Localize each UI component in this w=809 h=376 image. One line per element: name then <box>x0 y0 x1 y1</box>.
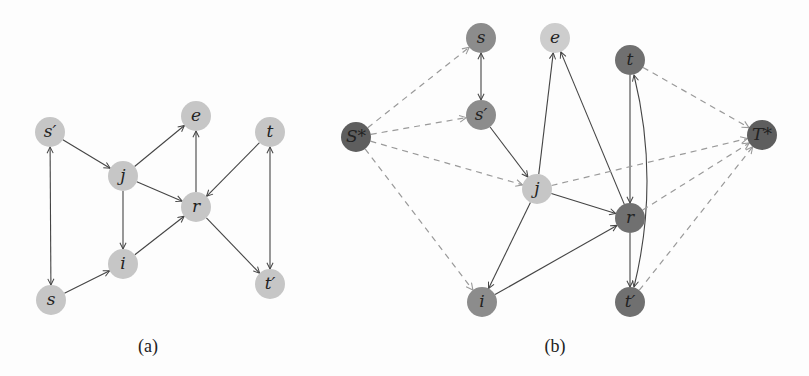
node-label: t′ <box>625 291 636 311</box>
node-label: e <box>191 105 201 125</box>
panel-a-edge-t-r <box>207 143 260 197</box>
panel-b-node-j: j <box>522 174 552 204</box>
graph-figure: s′etjrist′setS*s′T*jrit′ (a)(b) <box>0 0 809 376</box>
panel-b-edge-j-e <box>539 53 553 174</box>
panel-a-node-r: r <box>181 192 211 222</box>
panel-b-edge-t_prime-T_star <box>639 147 752 290</box>
node-label: t <box>267 121 274 141</box>
panel-b-node-e: e <box>540 23 570 53</box>
node-label: t′ <box>265 273 276 293</box>
panel-a-edge-r-t_prime <box>206 218 259 273</box>
panel-a-edge-s_prime-s <box>50 147 51 285</box>
panel-b-edge-S_star-s <box>368 47 469 127</box>
panel-a-node-t: t <box>255 117 285 147</box>
node-label: i <box>120 253 125 273</box>
panel-b-edge-j-i <box>489 202 531 288</box>
panel-b-edge-S_star-i <box>365 149 473 290</box>
panel-a-node-i: i <box>108 249 138 279</box>
panel-b-node-s: s <box>466 23 496 53</box>
node-label: T* <box>752 124 772 144</box>
node-label: r <box>192 196 201 216</box>
node-label: s′ <box>44 121 57 141</box>
panel-a-node-j: j <box>108 161 138 191</box>
panel-a-node-s: s <box>36 285 66 315</box>
panel-b-edge-S_star-j <box>370 141 522 185</box>
panel-b-edge-r-T_star <box>643 143 750 210</box>
panel-b-edge-i-r <box>495 225 617 294</box>
panel-a-edge-s-i <box>64 271 109 294</box>
panel-b-node-t_prime: t′ <box>615 287 645 317</box>
node-label: e <box>550 27 560 47</box>
panel-b-node-i: i <box>467 287 497 317</box>
panel-b-edge-t-T_star <box>643 67 749 127</box>
panel-a-edge-j-e <box>135 126 185 167</box>
node-label: s′ <box>475 104 488 124</box>
panel-a-node-s_prime: s′ <box>35 117 65 147</box>
panel-b-edge-S_star-s_prime <box>371 118 466 135</box>
panel-a-edge-s_prime-j <box>63 140 110 169</box>
node-label: i <box>479 291 484 311</box>
panel-a-node-e: e <box>181 101 211 131</box>
node-label: s <box>477 27 486 47</box>
node-label: t <box>627 49 634 69</box>
panel-a-edge-j-r <box>137 182 182 201</box>
panel-b-edge-t-t_prime <box>634 75 647 287</box>
node-label: S* <box>346 126 367 146</box>
panel-a-caption: (a) <box>138 336 158 357</box>
panel-b-node-T_star: T* <box>747 120 777 150</box>
panel-b-edge-r-e <box>561 52 624 204</box>
panel-b-node-s_prime: s′ <box>466 100 496 130</box>
panel-b-caption: (b) <box>545 336 566 357</box>
panel-b-edge-j-r <box>551 193 615 213</box>
panel-b-edge-s_prime-j <box>490 127 528 177</box>
panel-b-node-t: t <box>615 45 645 75</box>
panel-b-node-S_star: S* <box>341 122 371 152</box>
node-label: r <box>626 207 635 227</box>
node-label: s <box>47 289 56 309</box>
panel-a-node-t_prime: t′ <box>255 269 285 299</box>
panel-a-edge-i-r <box>135 216 184 255</box>
panel-b-node-r: r <box>615 203 645 233</box>
